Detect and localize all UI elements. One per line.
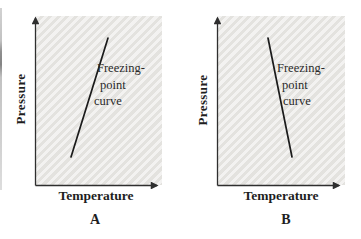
curve-label-a: Freezing- point curve (94, 60, 145, 110)
curve-label-b-line3: curve (283, 93, 325, 110)
curve-label-a-line3: curve (94, 93, 145, 110)
panel-letter-b: B (281, 212, 290, 228)
curve-label-a-line2: point (100, 77, 145, 94)
x-axis-label-a: Temperature (59, 188, 134, 204)
y-axis-label-b: Pressure (195, 74, 211, 125)
panel-letter-a: A (90, 212, 100, 228)
curve-label-b-line1: Freezing- (277, 60, 325, 77)
curve-label-a-line1: Freezing- (97, 60, 145, 77)
y-axis-label-a: Pressure (13, 73, 29, 124)
curve-label-b: Freezing- point curve (277, 60, 325, 110)
figure-two-phase-diagrams: Pressure Freezing- point curve Temperatu… (0, 0, 361, 239)
x-axis-label-b: Temperature (244, 188, 319, 204)
curve-label-b-line2: point (282, 77, 325, 94)
